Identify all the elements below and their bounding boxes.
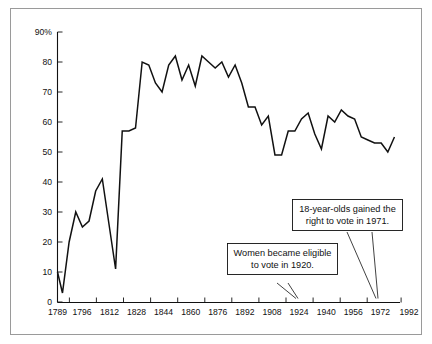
x-tick-label-1828: 1828: [127, 307, 146, 317]
leader-line-eighteen-b: [372, 232, 378, 299]
callout-women-line2: to vote in 1920.: [251, 260, 314, 270]
callout-eighteen-line1: 18-year-olds gained the: [299, 204, 396, 214]
y-tick-label-20: 20: [42, 237, 52, 247]
y-axis-ticks: [58, 32, 63, 302]
turnout-series-line: [58, 56, 395, 293]
x-tick-label-1860: 1860: [181, 307, 200, 317]
x-axis-ticks: [58, 298, 402, 303]
x-tick-label-1940: 1940: [317, 307, 336, 317]
x-tick-label-1789: 1789: [48, 307, 67, 317]
y-tick-label-80: 80: [42, 57, 52, 67]
y-axis: 90% 80 70 60 50 40 30 20 10 0: [35, 27, 63, 307]
voter-turnout-line-chart: 90% 80 70 60 50 40 30 20 10 0: [0, 0, 432, 344]
y-tick-label-40: 40: [42, 177, 52, 187]
x-tick-label-1972: 1972: [371, 307, 390, 317]
x-tick-label-1876: 1876: [208, 307, 227, 317]
leader-line-eighteen-a: [347, 232, 376, 299]
x-tick-label-1908: 1908: [262, 307, 281, 317]
callout-women-line1: Women became eligible: [234, 248, 332, 258]
x-tick-label-1956: 1956: [344, 307, 363, 317]
y-tick-label-60: 60: [42, 117, 52, 127]
x-tick-label-1924: 1924: [290, 307, 309, 317]
x-axis: 1789 1796 1812 1828 1844 1860 1876 1892 …: [48, 298, 419, 318]
y-tick-label-0: 0: [47, 297, 52, 307]
x-tick-label-1812: 1812: [100, 307, 119, 317]
y-axis-tick-labels: 90% 80 70 60 50 40 30 20 10 0: [35, 27, 53, 307]
y-tick-label-90: 90%: [35, 27, 53, 37]
x-tick-label-1844: 1844: [154, 307, 173, 317]
x-axis-tick-labels: 1789 1796 1812 1828 1844 1860 1876 1892 …: [48, 307, 419, 317]
x-tick-label-1892: 1892: [235, 307, 254, 317]
y-tick-label-50: 50: [42, 147, 52, 157]
x-tick-label-1796: 1796: [72, 307, 91, 317]
y-tick-label-70: 70: [42, 87, 52, 97]
callout-eighteen-line2: right to vote in 1971.: [306, 216, 389, 226]
annotation-women-suffrage: Women became eligible to vote in 1920.: [228, 244, 338, 299]
x-tick-label-1992: 1992: [399, 307, 418, 317]
chart-figure: 90% 80 70 60 50 40 30 20 10 0: [0, 0, 432, 344]
y-tick-label-30: 30: [42, 207, 52, 217]
y-tick-label-10: 10: [42, 267, 52, 277]
